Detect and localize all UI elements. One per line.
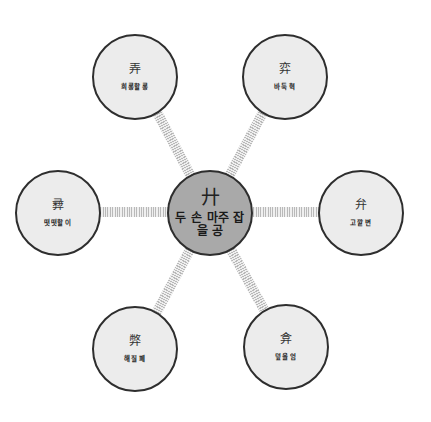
center-meaning: 두 손 마주 잡을 공 — [170, 212, 250, 240]
node-top-right: 弈 바둑 혁 — [242, 34, 328, 120]
node-hanja: 弇 — [280, 333, 292, 346]
node-bottom-left: 弊 해질 폐 — [92, 306, 178, 392]
node-left: 彛 떳떳할 이 — [15, 170, 101, 256]
node-center: 廾 두 손 마주 잡을 공 — [167, 170, 253, 256]
node-bottom-right: 弇 덮을 엄 — [243, 304, 329, 390]
node-hanja: 弁 — [355, 199, 367, 212]
node-meaning: 해질 폐 — [124, 353, 145, 363]
node-hanja: 弊 — [129, 335, 141, 348]
node-meaning: 희롱할 롱 — [121, 81, 148, 91]
center-hanja: 廾 — [201, 187, 220, 208]
node-meaning: 떳떳할 이 — [44, 217, 71, 227]
node-right: 弁 고깔 변 — [318, 170, 404, 256]
node-hanja: 彛 — [52, 199, 64, 212]
node-meaning: 덮을 엄 — [275, 351, 296, 361]
node-hanja: 弄 — [129, 63, 141, 76]
node-meaning: 바둑 혁 — [274, 81, 295, 91]
node-meaning: 고깔 변 — [350, 217, 371, 227]
node-hanja: 弈 — [279, 63, 291, 76]
node-top-left: 弄 희롱할 롱 — [92, 34, 178, 120]
